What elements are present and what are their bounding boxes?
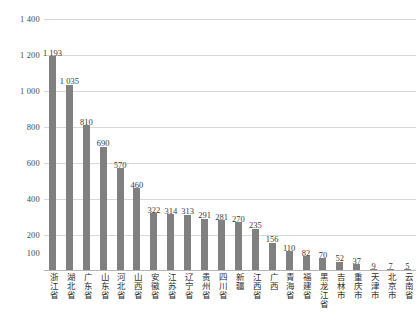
x-axis-category: 广西 (264, 273, 281, 331)
bar-value-label: 460 (131, 181, 144, 190)
x-axis-category-label: 黑龙江省 (319, 273, 328, 331)
x-axis-category: 江苏省 (162, 273, 179, 331)
bar-slot: 156 (264, 19, 281, 271)
y-axis-tick-label: 400 (0, 194, 40, 204)
x-axis-category-label: 云南省 (403, 273, 412, 331)
bar[interactable]: 291 (201, 219, 208, 271)
x-axis-category-label: 浙江省 (48, 273, 57, 331)
bar-value-label: 82 (302, 249, 311, 258)
bar-value-label: 7 (388, 262, 392, 271)
bar[interactable]: 313 (184, 215, 191, 271)
bar[interactable]: 281 (218, 220, 225, 271)
bar-value-label: 314 (164, 207, 177, 216)
y-axis-tick-label: 600 (0, 158, 40, 168)
bar[interactable]: 270 (235, 222, 242, 271)
bar-value-label: 70 (319, 251, 328, 260)
bar-value-label: 235 (249, 221, 262, 230)
x-axis-category-label: 福建省 (302, 273, 311, 331)
x-axis-category-label: 新疆 (234, 273, 243, 331)
x-axis-category-label: 天津市 (369, 273, 378, 331)
x-axis-category-label: 重庆市 (352, 273, 361, 331)
bar-value-label: 5 (405, 262, 409, 271)
bar-slot: 235 (247, 19, 264, 271)
bar-value-label: 110 (283, 244, 295, 253)
x-axis-category: 新疆 (230, 273, 247, 331)
x-axis-category: 安徽省 (145, 273, 162, 331)
x-axis-category: 福建省 (298, 273, 315, 331)
bar-slot: 810 (78, 19, 95, 271)
bar-value-label: 1 035 (60, 77, 79, 86)
bar-value-label: 690 (97, 139, 110, 148)
x-axis-category-label: 河北省 (116, 273, 125, 331)
bar-value-label: 1 193 (43, 49, 62, 58)
x-axis-category-label: 江西省 (251, 273, 260, 331)
bar[interactable]: 690 (100, 147, 107, 271)
x-axis-category-label: 江苏省 (166, 273, 175, 331)
bar-value-label: 9 (372, 262, 376, 271)
bar-value-label: 270 (232, 215, 245, 224)
x-axis-labels: 浙江省湖北省广东省山东省河北省山西省安徽省江苏省辽宁省贵州省四川省新疆江西省广西… (44, 273, 416, 331)
bar-value-label: 810 (80, 118, 93, 127)
bar[interactable]: 314 (167, 214, 174, 271)
bar-slot: 1 035 (61, 19, 78, 271)
x-axis-category: 四川省 (213, 273, 230, 331)
bar-slot: 110 (281, 19, 298, 271)
x-axis-category-label: 湖北省 (65, 273, 74, 331)
x-axis-category: 青海省 (281, 273, 298, 331)
bar[interactable]: 235 (252, 229, 259, 271)
y-axis-tick-label: 1 200 (0, 50, 40, 60)
x-axis-category-label: 广东省 (82, 273, 91, 331)
bar-value-label: 52 (336, 254, 345, 263)
y-axis-tick-label: 100 (0, 248, 40, 258)
bar-slot: 460 (129, 19, 146, 271)
bar-slot: 37 (348, 19, 365, 271)
x-axis-category: 黑龙江省 (315, 273, 332, 331)
x-axis-category-label: 北京市 (386, 273, 395, 331)
bar-value-label: 37 (353, 257, 362, 266)
bar-slot: 70 (315, 19, 332, 271)
bar[interactable]: 460 (133, 188, 140, 271)
bar-slot: 5 (399, 19, 416, 271)
x-axis-category: 江西省 (247, 273, 264, 331)
x-axis-category-label: 山东省 (99, 273, 108, 331)
x-axis-category: 浙江省 (44, 273, 61, 331)
x-axis-line (44, 270, 416, 271)
plot-area: 1 1931 035810690570460322314313291281270… (44, 19, 416, 271)
x-axis-category: 辽宁省 (179, 273, 196, 331)
bar-slot: 281 (213, 19, 230, 271)
bar-slot: 314 (162, 19, 179, 271)
x-axis-category-label: 山西省 (133, 273, 142, 331)
x-axis-category-label: 贵州省 (200, 273, 209, 331)
bar-slot: 9 (365, 19, 382, 271)
bar[interactable]: 570 (117, 168, 124, 271)
x-axis-category-label: 广西 (268, 273, 277, 331)
bar[interactable]: 156 (269, 243, 276, 271)
x-axis-category: 北京市 (382, 273, 399, 331)
y-axis-tick-label: 800 (0, 122, 40, 132)
bar[interactable]: 82 (303, 256, 310, 271)
x-axis-category: 吉林市 (331, 273, 348, 331)
bar-slot: 82 (298, 19, 315, 271)
y-axis-tick-label: 1 000 (0, 86, 40, 96)
x-axis-category: 山西省 (129, 273, 146, 331)
bar-slot: 291 (196, 19, 213, 271)
bar[interactable]: 810 (83, 125, 90, 271)
x-axis-category: 云南省 (399, 273, 416, 331)
y-axis-labels: 1 4001 2001 000800600400200100 (0, 0, 40, 331)
bar-value-label: 291 (198, 211, 211, 220)
x-axis-category-label: 辽宁省 (183, 273, 192, 331)
bar-value-label: 281 (215, 213, 228, 222)
bar-slot: 270 (230, 19, 247, 271)
x-axis-category-label: 安徽省 (150, 273, 159, 331)
bar-slot: 690 (95, 19, 112, 271)
bar-slot: 313 (179, 19, 196, 271)
x-axis-category: 湖北省 (61, 273, 78, 331)
bar-value-label: 570 (114, 161, 127, 170)
x-axis-category: 山东省 (95, 273, 112, 331)
bar[interactable]: 110 (286, 251, 293, 271)
x-axis-category: 河北省 (112, 273, 129, 331)
bar[interactable]: 1 193 (49, 56, 56, 271)
x-axis-category: 贵州省 (196, 273, 213, 331)
bar[interactable]: 1 035 (66, 85, 73, 271)
bar[interactable]: 322 (150, 213, 157, 271)
